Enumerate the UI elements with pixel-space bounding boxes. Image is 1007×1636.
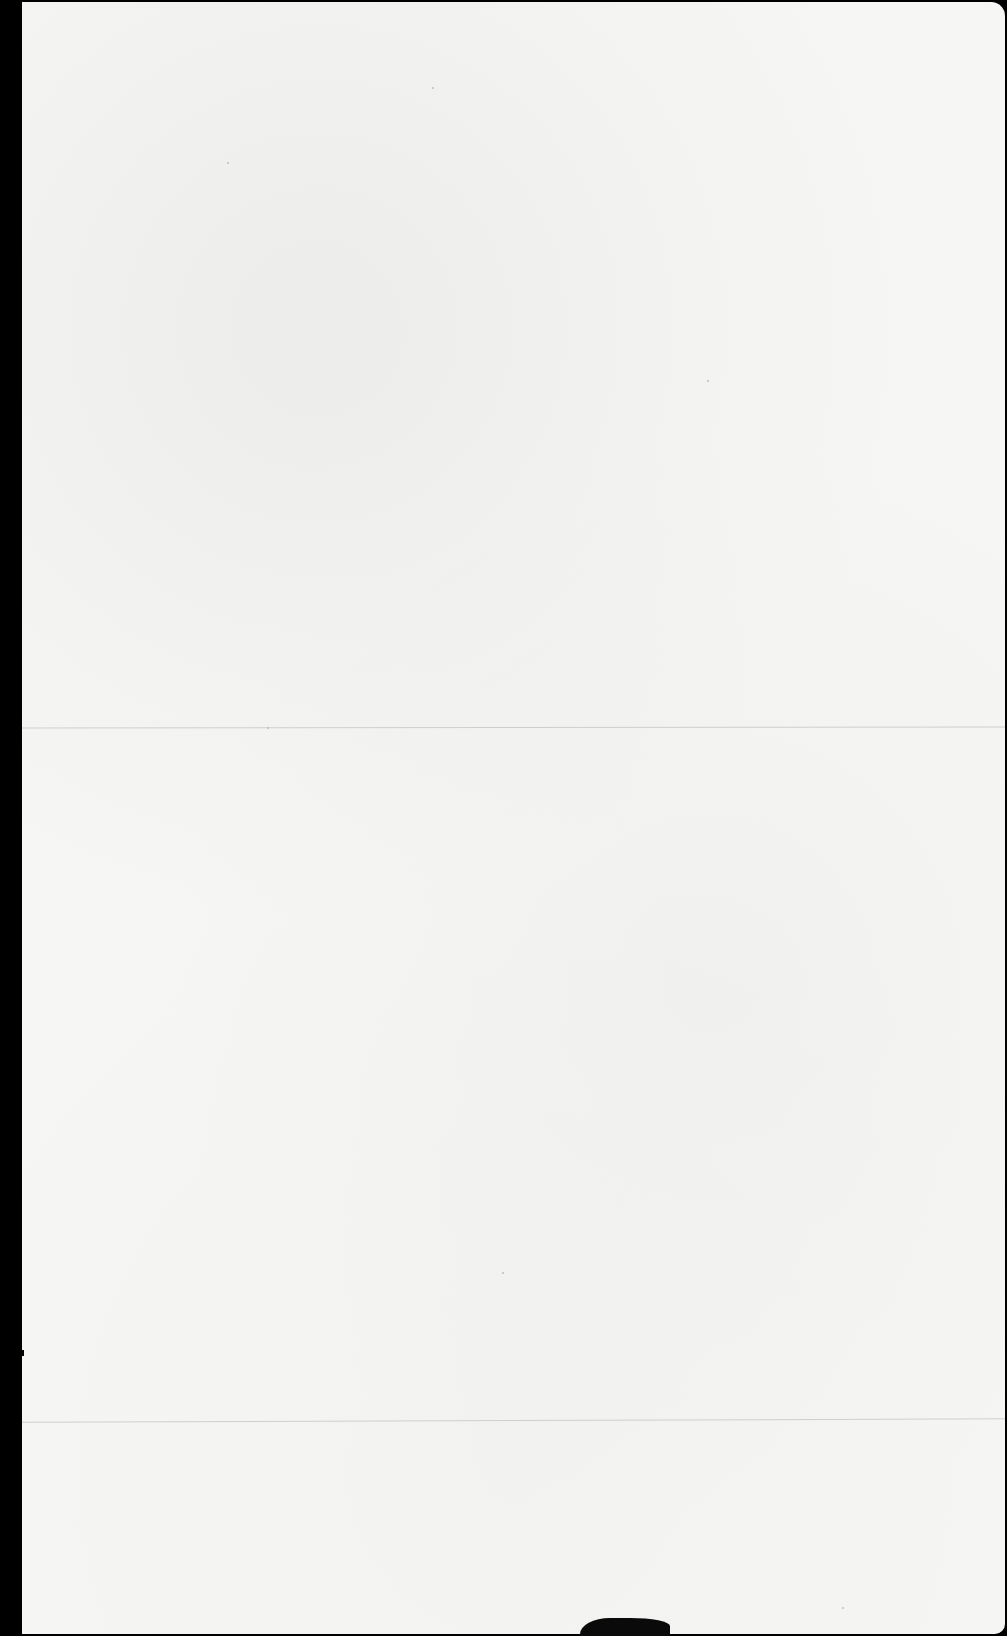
upper-fold-line [22,726,1005,728]
paper-speck [227,162,229,164]
blank-scanned-page [22,2,1005,1634]
paper-speck [432,87,434,89]
paper-speck [502,1272,504,1274]
paper-speck [842,1607,844,1609]
scan-edge-artifact [16,1350,24,1356]
bottom-edge-mark [580,1618,670,1636]
paper-speck [267,727,269,729]
paper-speck [707,380,709,382]
lower-fold-line [22,1418,1005,1422]
